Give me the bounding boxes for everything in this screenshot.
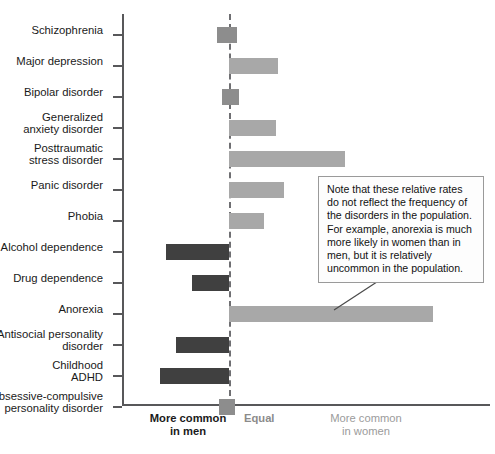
category-tick — [113, 127, 122, 129]
category-tick — [113, 34, 122, 36]
chart-row: Antisocial personalitydisorder — [0, 329, 495, 360]
axis-label-equal: Equal — [244, 412, 274, 425]
category-label-line: Major depression — [0, 55, 103, 67]
category-label: Phobia — [0, 210, 103, 222]
chart-row: ChildhoodADHD — [0, 360, 495, 391]
category-label: Schizophrenia — [0, 24, 103, 36]
category-label: Posttraumaticstress disorder — [0, 142, 103, 167]
category-label-line: ADHD — [0, 371, 103, 383]
category-label-line: personality disorder — [0, 402, 103, 414]
category-label: Obsessive-compulsivepersonality disorder — [0, 390, 103, 415]
category-label: Drug dependence — [0, 272, 103, 284]
category-tick — [113, 158, 122, 160]
category-label-line: Bipolar disorder — [0, 86, 103, 98]
callout-note: Note that these relative rates do not re… — [318, 176, 484, 283]
category-tick — [113, 375, 122, 377]
category-label-line: Anorexia — [0, 303, 103, 315]
category-tick — [113, 344, 122, 346]
category-tick — [113, 189, 122, 191]
category-label-line: Childhood — [0, 359, 103, 371]
category-tick — [113, 251, 122, 253]
axis-label-men-line2: in men — [134, 425, 242, 438]
axis-label-more-common-in-women: More common in women — [300, 412, 432, 437]
chart-row: Major depression — [0, 50, 495, 81]
category-label-line: Drug dependence — [0, 272, 103, 284]
chart-row: Posttraumaticstress disorder — [0, 143, 495, 174]
bar — [160, 368, 229, 384]
chart-row: Bipolar disorder — [0, 81, 495, 112]
category-label-line: Posttraumatic — [0, 142, 103, 154]
category-label: Alcohol dependence — [0, 241, 103, 253]
category-label-line: disorder — [0, 340, 103, 352]
bar — [229, 58, 278, 74]
category-tick — [113, 282, 122, 284]
diverging-bar-chart: SchizophreniaMajor depressionBipolar dis… — [0, 0, 495, 454]
category-label-line: Obsessive-compulsive — [0, 390, 103, 402]
chart-row: Schizophrenia — [0, 19, 495, 50]
category-label-line: Schizophrenia — [0, 24, 103, 36]
category-label: Bipolar disorder — [0, 86, 103, 98]
bar — [176, 337, 229, 353]
category-tick — [113, 406, 122, 408]
category-tick — [113, 96, 122, 98]
category-tick — [113, 220, 122, 222]
category-label-line: Phobia — [0, 210, 103, 222]
axis-label-more-common-in-men: More common in men — [134, 412, 242, 437]
callout-text: Note that these relative rates do not re… — [327, 183, 472, 274]
axis-label-women-line2: in women — [300, 425, 432, 438]
category-label-line: stress disorder — [0, 154, 103, 166]
chart-row: Generalizedanxiety disorder — [0, 112, 495, 143]
category-label: Anorexia — [0, 303, 103, 315]
category-label-line: anxiety disorder — [0, 123, 103, 135]
axis-label-men-line1: More common — [134, 412, 242, 425]
category-label: ChildhoodADHD — [0, 359, 103, 384]
bar — [192, 275, 229, 291]
category-label: Panic disorder — [0, 179, 103, 191]
category-label: Generalizedanxiety disorder — [0, 111, 103, 136]
chart-row: Anorexia — [0, 298, 495, 329]
category-label-line: Panic disorder — [0, 179, 103, 191]
category-label-line: Antisocial personality — [0, 328, 103, 340]
bar — [222, 89, 239, 105]
bar — [166, 244, 229, 260]
bar — [229, 182, 284, 198]
bar — [217, 27, 237, 43]
category-tick — [113, 313, 122, 315]
bar — [229, 120, 276, 136]
category-label: Antisocial personalitydisorder — [0, 328, 103, 353]
category-tick — [113, 65, 122, 67]
bar — [229, 213, 264, 229]
bar — [229, 151, 345, 167]
category-label: Major depression — [0, 55, 103, 67]
category-label-line: Generalized — [0, 111, 103, 123]
axis-label-women-line1: More common — [300, 412, 432, 425]
category-label-line: Alcohol dependence — [0, 241, 103, 253]
